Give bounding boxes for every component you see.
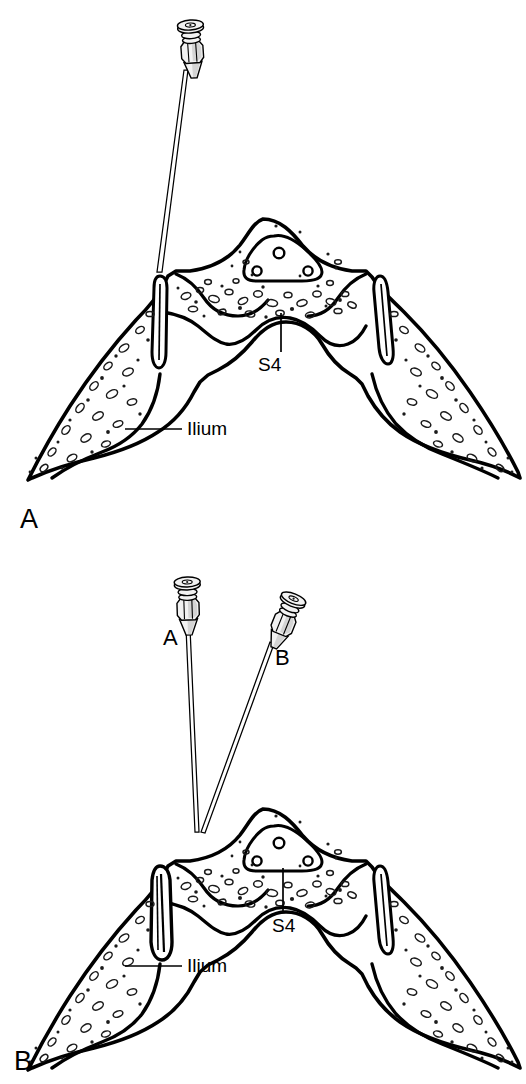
needle-b1-shaft — [186, 628, 199, 832]
bone-group-a — [28, 219, 520, 480]
panel-a: S4 Ilium — [0, 0, 526, 542]
panel-a-illustration: S4 Ilium — [0, 0, 526, 542]
s4-label-a: S4 — [258, 354, 282, 375]
sacrum-ilium-silhouette-b — [28, 809, 520, 1070]
panel-letter-a: A — [20, 504, 38, 534]
s4-label-b: S4 — [272, 915, 296, 936]
needle-b2: B — [201, 589, 308, 833]
needle-b1-letter: A — [163, 625, 178, 650]
ilium-label-b: Ilium — [187, 955, 227, 976]
figure-root: S4 Ilium — [0, 0, 526, 1084]
needle-b2-letter: B — [275, 645, 290, 670]
ilium-label-a: Ilium — [187, 418, 227, 439]
panel-letter-b: B — [14, 1046, 32, 1076]
bone-group-b — [28, 809, 520, 1070]
needle-b2-shaft — [201, 642, 274, 833]
panel-b-illustration: S4 Ilium — [0, 542, 526, 1084]
needle-a1 — [157, 19, 207, 272]
si-joint-left-line — [159, 284, 160, 360]
si-joint-left-line2-b — [157, 876, 158, 950]
sacrum-ilium-silhouette — [28, 219, 520, 480]
panel-b: S4 Ilium — [0, 542, 526, 1084]
needle-a1-shaft — [157, 70, 188, 272]
needle-b1: A — [163, 577, 202, 832]
